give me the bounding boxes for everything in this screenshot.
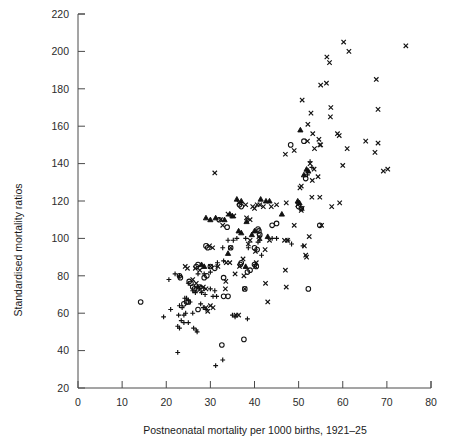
series-triangle (199, 127, 311, 268)
x-tick-label: 80 (425, 396, 437, 408)
data-point-circle (220, 343, 225, 348)
data-point-cross (292, 148, 296, 152)
y-tick-label: 80 (57, 270, 69, 282)
series-circle (138, 139, 322, 347)
data-point-plus (259, 253, 264, 258)
data-point-plus (190, 311, 195, 316)
data-point-cross (324, 81, 328, 85)
data-point-plus (196, 272, 201, 277)
data-point-plus (274, 236, 279, 241)
data-point-plus (161, 315, 166, 320)
scatter-plot-figure: 20406080100120140160180200220 0102030405… (0, 0, 450, 443)
data-point-triangle (298, 127, 303, 132)
data-point-plus (308, 159, 313, 164)
data-point-cross (337, 133, 341, 137)
x-tick-label: 50 (293, 396, 305, 408)
data-point-cross (329, 105, 333, 109)
data-point-cross (284, 285, 288, 289)
y-tick-label: 220 (51, 8, 69, 20)
data-point-plus (220, 245, 225, 250)
data-point-circle (138, 300, 143, 305)
data-point-cross (376, 141, 380, 145)
y-tick-label: 180 (51, 83, 69, 95)
data-point-cross (223, 287, 227, 291)
data-point-plus (212, 288, 217, 293)
data-point-cross (347, 49, 351, 53)
data-point-circle (288, 143, 293, 148)
data-point-cross (306, 122, 310, 126)
data-point-cross (242, 274, 246, 278)
data-point-cross (263, 247, 267, 251)
data-point-cross (363, 139, 367, 143)
x-tick-label: 70 (381, 396, 393, 408)
y-tick-label: 60 (57, 307, 69, 319)
y-axis-ticks: 20406080100120140160180200220 (51, 8, 85, 394)
data-point-cross (309, 111, 313, 115)
x-tick-label: 0 (75, 396, 81, 408)
data-point-cross (376, 107, 380, 111)
data-point-cross (327, 60, 331, 64)
data-point-cross (213, 171, 217, 175)
data-point-cross (386, 167, 390, 171)
data-point-triangle (243, 264, 248, 269)
data-point-cross (252, 206, 256, 210)
x-tick-label: 30 (205, 396, 217, 408)
data-point-cross (185, 266, 189, 270)
data-point-cross (328, 115, 332, 119)
data-point-cross (269, 204, 273, 208)
data-point-cross (283, 152, 287, 156)
data-point-cross (374, 77, 378, 81)
y-tick-label: 200 (51, 45, 69, 57)
data-point-cross (266, 300, 270, 304)
data-point-cross (373, 150, 377, 154)
data-point-triangle (265, 234, 270, 239)
y-tick-label: 100 (51, 232, 69, 244)
y-axis-title: Standardised mortality ratios (12, 183, 24, 316)
data-point-triangle (258, 197, 263, 202)
data-point-cross (325, 55, 329, 59)
data-point-circle (274, 221, 279, 226)
data-point-cross (307, 234, 311, 238)
data-point-cross (283, 268, 287, 272)
data-point-cross (341, 163, 345, 167)
data-point-cross (337, 201, 341, 205)
data-point-plus (166, 277, 171, 282)
data-point-cross (263, 281, 267, 285)
data-point-circle (196, 307, 201, 312)
axis-lines (78, 14, 431, 388)
data-point-triangle (279, 211, 284, 216)
data-point-cross (228, 261, 232, 265)
y-tick-label: 20 (57, 382, 69, 394)
data-point-plus (175, 350, 180, 355)
data-point-plus (226, 238, 231, 243)
data-point-cross (316, 174, 320, 178)
data-point-cross (255, 203, 259, 207)
data-point-cross (381, 169, 385, 173)
chart-canvas: 20406080100120140160180200220 0102030405… (0, 0, 450, 443)
data-point-cross (221, 223, 225, 227)
x-axis-title: Postneonatal mortality per 1000 births, … (143, 424, 367, 436)
data-point-triangle (203, 215, 208, 220)
data-point-cross (317, 137, 321, 141)
x-tick-label: 60 (337, 396, 349, 408)
x-tick-label: 10 (116, 396, 128, 408)
data-point-plus (213, 363, 218, 368)
data-point-cross (284, 201, 288, 205)
y-tick-label: 120 (51, 195, 69, 207)
y-tick-label: 140 (51, 157, 69, 169)
data-point-plus (220, 358, 225, 363)
data-point-cross (274, 203, 278, 207)
data-point-plus (243, 236, 248, 241)
y-tick-label: 160 (51, 120, 69, 132)
data-point-cross (312, 146, 316, 150)
data-point-cross (311, 131, 315, 135)
y-tick-label: 40 (57, 344, 69, 356)
data-point-circle (302, 139, 307, 144)
data-point-cross (341, 40, 345, 44)
data-point-triangle (234, 197, 239, 202)
series-cross (183, 40, 408, 317)
data-point-cross (233, 272, 237, 276)
data-point-plus (245, 316, 250, 321)
data-point-cross (298, 186, 302, 190)
data-point-plus (301, 243, 306, 248)
